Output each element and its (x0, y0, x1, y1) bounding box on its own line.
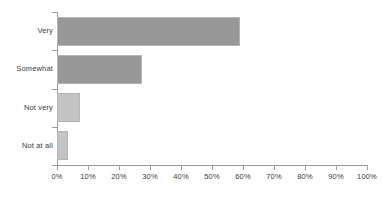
bar-not-very (57, 93, 80, 122)
x-tick-mark (367, 166, 368, 170)
y-axis-label-somewhat: Somewhat (16, 65, 53, 73)
x-axis-label-90pct: 90% (328, 173, 343, 181)
x-axis-label-80pct: 80% (297, 173, 312, 181)
bar-very (57, 17, 240, 46)
x-tick-mark (57, 166, 58, 170)
bar-somewhat (57, 55, 142, 84)
x-tick-mark (274, 166, 275, 170)
y-tick-mark (52, 12, 57, 13)
y-tick-mark (52, 50, 57, 51)
plot-area: VerySomewhatNot veryNot at all 0%10%20%3… (0, 0, 382, 197)
y-axis-label-very: Very (37, 27, 53, 35)
x-axis-label-0pct: 0% (51, 173, 62, 181)
x-tick-mark (119, 166, 120, 170)
x-axis-label-70pct: 70% (266, 173, 281, 181)
x-axis-label-10pct: 10% (80, 173, 95, 181)
x-tick-mark (150, 166, 151, 170)
x-tick-mark (88, 166, 89, 170)
x-axis-label-40pct: 40% (173, 173, 188, 181)
y-tick-mark (52, 89, 57, 90)
x-tick-mark (181, 166, 182, 170)
bar-not-at-all (57, 131, 68, 160)
x-tick-mark (305, 166, 306, 170)
x-axis-label-20pct: 20% (111, 173, 126, 181)
x-axis-label-30pct: 30% (142, 173, 157, 181)
y-axis-label-not-at-all: Not at all (22, 142, 53, 150)
x-tick-mark (212, 166, 213, 170)
x-axis-label-100pct: 100% (357, 173, 377, 181)
bar-chart: VerySomewhatNot veryNot at all 0%10%20%3… (0, 0, 382, 197)
y-axis-label-not-very: Not very (24, 104, 53, 112)
x-axis-label-50pct: 50% (204, 173, 219, 181)
x-tick-mark (336, 166, 337, 170)
x-axis-label-60pct: 60% (235, 173, 250, 181)
x-tick-mark (243, 166, 244, 170)
y-tick-mark (52, 127, 57, 128)
